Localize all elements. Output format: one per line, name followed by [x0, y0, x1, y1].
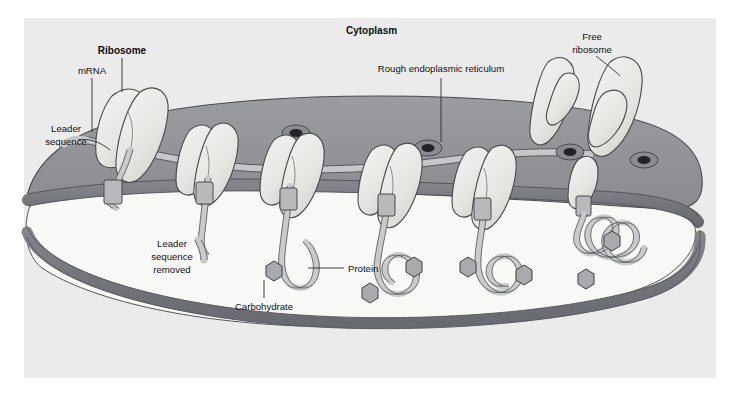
carbohydrate-hexagon — [578, 269, 594, 289]
carbohydrate-hexagon — [516, 265, 532, 285]
label-protein: Protein — [348, 263, 378, 274]
translocon — [280, 188, 297, 210]
carbohydrate-hexagon — [406, 257, 422, 277]
label-mrna: mRNA — [78, 65, 107, 76]
label-leader-sequence-line2: sequence — [45, 136, 87, 147]
label-free-ribosome-line2: ribosome — [572, 44, 611, 55]
translocon — [104, 180, 122, 204]
label-leader-removed-line3: removed — [153, 264, 190, 275]
label-ribosome: Ribosome — [98, 45, 147, 56]
translocon — [474, 198, 491, 220]
carbohydrate-hexagon — [362, 283, 378, 303]
translocon — [378, 194, 395, 216]
label-free-ribosome-line1: Free — [582, 31, 602, 42]
carbohydrate-hexagon — [460, 257, 476, 277]
translocon — [196, 182, 213, 204]
surface-pore — [630, 152, 658, 168]
carbohydrate-hexagon — [266, 261, 282, 281]
label-leader-removed-line2: sequence — [151, 251, 193, 262]
surface-pore — [556, 144, 584, 160]
label-rough-endoplasmic-reticulum: Rough endoplasmic reticulum — [378, 63, 504, 74]
label-carbohydrate: Carbohydrate — [235, 301, 293, 312]
carbohydrate-hexagon — [604, 231, 620, 251]
label-leader-sequence-line1: Leader — [51, 123, 82, 134]
cell-diagram-svg: Cytoplasm Ribosome mRNA Leader sequence … — [0, 0, 739, 399]
label-cytoplasm: Cytoplasm — [346, 25, 397, 36]
label-leader-removed-line1: Leader — [157, 238, 188, 249]
figure-container: Cytoplasm Ribosome mRNA Leader sequence … — [0, 0, 739, 399]
